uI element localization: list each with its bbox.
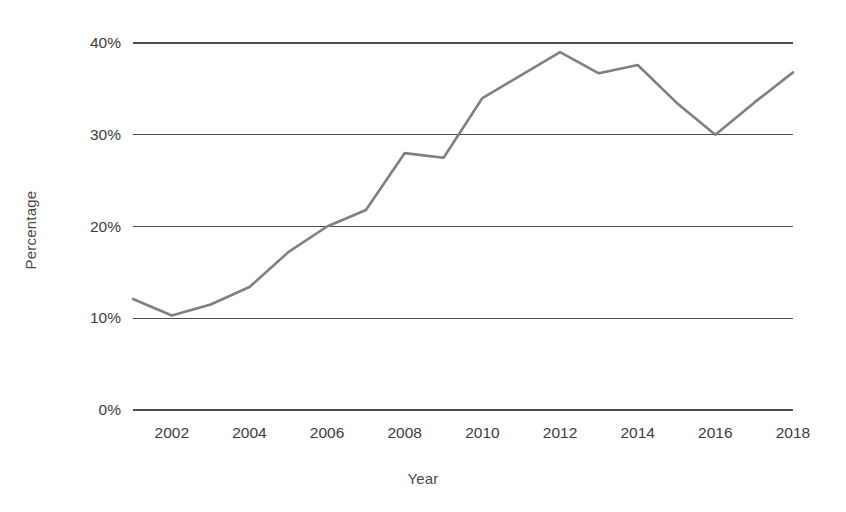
- x-tick-label: 2018: [758, 424, 828, 442]
- x-tick-label: 2010: [447, 424, 517, 442]
- x-tick-label: 2002: [137, 424, 207, 442]
- y-tick-label: 30%: [40, 126, 121, 144]
- y-axis-title: Percentage: [22, 130, 39, 330]
- x-axis-title: Year: [0, 470, 846, 487]
- x-tick-label: 2008: [370, 424, 440, 442]
- x-tick-label: 2012: [525, 424, 595, 442]
- x-tick-label: 2016: [680, 424, 750, 442]
- x-tick-label: 2006: [292, 424, 362, 442]
- y-tick-label: 20%: [40, 218, 121, 236]
- y-tick-label: 40%: [40, 34, 121, 52]
- x-tick-label: 2004: [214, 424, 284, 442]
- y-tick-label: 0%: [40, 401, 121, 419]
- series-line-percentage: [133, 52, 793, 315]
- x-tick-label: 2014: [603, 424, 673, 442]
- gridlines: [133, 43, 793, 410]
- line-chart: 0%10%20%30%40% 2002200420062008201020122…: [0, 0, 846, 512]
- data-series-line: [133, 52, 793, 315]
- y-tick-label: 10%: [40, 309, 121, 327]
